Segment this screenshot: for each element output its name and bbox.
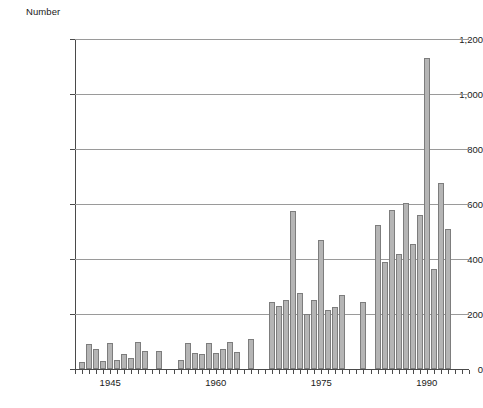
- x-tick-mark: [420, 370, 421, 374]
- bar: [220, 349, 226, 369]
- gridline: [75, 149, 469, 150]
- bar: [135, 342, 141, 369]
- x-tick-mark: [251, 370, 252, 374]
- x-tick-mark: [469, 370, 470, 374]
- x-tick-mark: [307, 370, 308, 374]
- x-tick-label: 1945: [100, 377, 121, 388]
- bar: [156, 351, 162, 369]
- gridline: [75, 204, 469, 205]
- x-tick-mark: [342, 370, 343, 374]
- x-tick-mark: [385, 370, 386, 374]
- x-tick-mark: [448, 370, 449, 374]
- bar: [290, 211, 296, 369]
- x-tick-mark: [152, 370, 153, 374]
- bar: [142, 351, 148, 369]
- bar: [248, 339, 254, 369]
- x-tick-mark: [96, 370, 97, 374]
- bar: [410, 244, 416, 369]
- x-tick-mark: [237, 370, 238, 374]
- bar: [339, 295, 345, 369]
- bar: [213, 353, 219, 369]
- x-tick-mark: [265, 370, 266, 374]
- bar: [438, 183, 444, 369]
- x-tick-mark: [124, 370, 125, 374]
- bar: [227, 342, 233, 370]
- gridline: [75, 94, 469, 95]
- x-tick-mark: [103, 370, 104, 374]
- gridline: [75, 39, 469, 40]
- bar: [424, 58, 430, 369]
- x-tick-mark: [406, 370, 407, 374]
- bar: [114, 360, 120, 369]
- x-tick-mark: [378, 370, 379, 374]
- x-tick-mark: [159, 370, 160, 374]
- bar: [382, 262, 388, 369]
- x-tick-mark: [321, 370, 322, 374]
- x-tick-mark: [399, 370, 400, 374]
- bar: [185, 343, 191, 369]
- x-tick-mark: [174, 370, 175, 374]
- bar: [276, 306, 282, 369]
- x-tick-mark: [230, 370, 231, 374]
- x-tick-mark: [244, 370, 245, 374]
- bar: [325, 310, 331, 369]
- x-tick-label: 1975: [311, 377, 332, 388]
- bar: [121, 354, 127, 369]
- x-tick-mark: [328, 370, 329, 374]
- bar: [86, 344, 92, 369]
- x-tick-mark: [455, 370, 456, 374]
- x-tick-mark: [363, 370, 364, 374]
- x-tick-mark: [209, 370, 210, 374]
- x-tick-mark: [356, 370, 357, 374]
- bar: [318, 240, 324, 369]
- x-tick-mark: [272, 370, 273, 374]
- bar: [445, 229, 451, 369]
- bar: [107, 343, 113, 369]
- x-tick-mark: [117, 370, 118, 374]
- x-tick-mark: [131, 370, 132, 374]
- x-tick-mark: [413, 370, 414, 374]
- bar: [311, 300, 317, 369]
- bar: [192, 353, 198, 370]
- x-tick-label: 1990: [416, 377, 437, 388]
- x-tick-mark: [293, 370, 294, 374]
- bar: [332, 307, 338, 369]
- x-tick-mark: [349, 370, 350, 374]
- bar: [389, 210, 395, 370]
- x-tick-mark: [286, 370, 287, 374]
- bar: [304, 314, 310, 369]
- x-tick-mark: [166, 370, 167, 374]
- bar: [199, 354, 205, 369]
- x-tick-mark: [279, 370, 280, 374]
- bar: [269, 302, 275, 369]
- x-tick-mark: [181, 370, 182, 374]
- x-tick-mark: [202, 370, 203, 374]
- x-tick-mark: [441, 370, 442, 374]
- x-tick-mark: [314, 370, 315, 374]
- bar: [178, 360, 184, 369]
- bar: [79, 362, 85, 369]
- x-tick-mark: [427, 370, 428, 374]
- x-tick-mark: [188, 370, 189, 374]
- x-tick-mark: [145, 370, 146, 374]
- bar: [206, 343, 212, 369]
- bar: [360, 302, 366, 369]
- y-axis-title: Number: [26, 6, 60, 17]
- bar-chart: Number 02004006008001,0001,200 194519601…: [0, 0, 483, 408]
- bar: [128, 358, 134, 369]
- bar: [234, 352, 240, 369]
- x-tick-mark: [258, 370, 259, 374]
- x-tick-mark: [392, 370, 393, 374]
- x-tick-mark: [462, 370, 463, 374]
- x-tick-mark: [75, 370, 76, 374]
- bar: [396, 254, 402, 370]
- bar: [417, 215, 423, 369]
- x-tick-mark: [223, 370, 224, 374]
- x-tick-mark: [82, 370, 83, 374]
- x-tick-label: 1960: [205, 377, 226, 388]
- x-tick-mark: [300, 370, 301, 374]
- x-tick-mark: [434, 370, 435, 374]
- x-tick-mark: [216, 370, 217, 374]
- x-tick-mark: [195, 370, 196, 374]
- x-tick-mark: [110, 370, 111, 374]
